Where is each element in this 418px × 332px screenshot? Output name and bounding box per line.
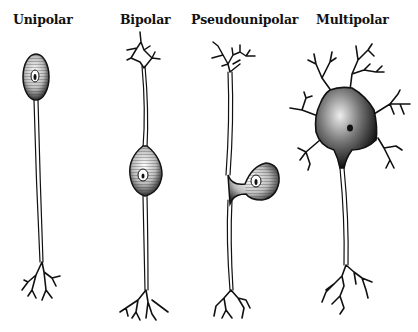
unipolar-neuron [22, 54, 60, 300]
bipolar-neuron [120, 32, 168, 320]
multipolar-neuron [290, 44, 410, 314]
neuron-diagram [0, 0, 418, 332]
pseudounipolar-neuron [212, 42, 279, 318]
